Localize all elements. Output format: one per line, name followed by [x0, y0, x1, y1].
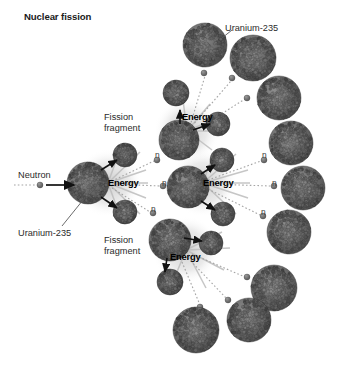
label-neutron: Neutron [18, 170, 51, 182]
label-fission-fragment-top-line2: fragment [104, 123, 140, 135]
free-neutron [244, 95, 250, 101]
nucleus-uranium-235 [227, 298, 271, 342]
label-uranium-235-top-right: Uranium-235 [225, 23, 278, 35]
label-neutron-marker: n [262, 150, 267, 160]
label-energy-right: Energy [203, 177, 234, 188]
nucleus-uranium-235 [257, 76, 301, 120]
nuclei-group [67, 23, 325, 353]
nucleus-fission-fragment [199, 231, 223, 255]
page-title: Nuclear fission [24, 11, 91, 22]
nucleus-fission-fragment [113, 200, 137, 224]
label-energy-upper: Energy [182, 111, 213, 122]
label-uranium-235-left: Uranium-235 [18, 228, 71, 240]
leader-line-uranium-left [62, 200, 83, 226]
nucleus-uranium-235 [267, 210, 311, 254]
nucleus-uranium-235 [269, 121, 313, 165]
label-neutron-marker: n [155, 150, 160, 160]
nucleus-fission-fragment [211, 202, 235, 226]
label-fission-fragment-top-line1: Fission [104, 112, 133, 124]
nuclear-fission-diagram [0, 0, 339, 370]
nucleus-uranium-235 [281, 166, 325, 210]
free-neutron [37, 182, 43, 188]
free-neutron [201, 70, 207, 76]
nucleus-fission-fragment [210, 148, 234, 172]
nucleus-uranium-235 [230, 35, 276, 81]
nucleus-fission-fragment [157, 269, 183, 295]
nucleus-fission-fragment [163, 80, 189, 106]
free-neutron [229, 75, 235, 81]
label-neutron-marker: n [151, 204, 156, 214]
label-neutron-marker: n [162, 178, 167, 188]
nucleus-fission-fragment [113, 143, 137, 167]
figure-canvas: Nuclear fission Uranium-235 Fission frag… [0, 0, 339, 370]
label-neutron-marker: n [261, 207, 266, 217]
free-neutron [225, 297, 231, 303]
label-energy-lower: Energy [170, 251, 201, 262]
label-energy-left: Energy [108, 177, 139, 188]
nucleus-uranium-235 [173, 307, 219, 353]
free-neutron [244, 274, 250, 280]
nucleus-uranium-235 [183, 23, 227, 67]
label-neutron-marker: n [272, 178, 277, 188]
label-fission-fragment-bottom-line1: Fission [104, 235, 133, 247]
nucleus-fissioning-nucleus [159, 120, 199, 160]
label-fission-fragment-bottom-line2: fragment [104, 246, 140, 258]
